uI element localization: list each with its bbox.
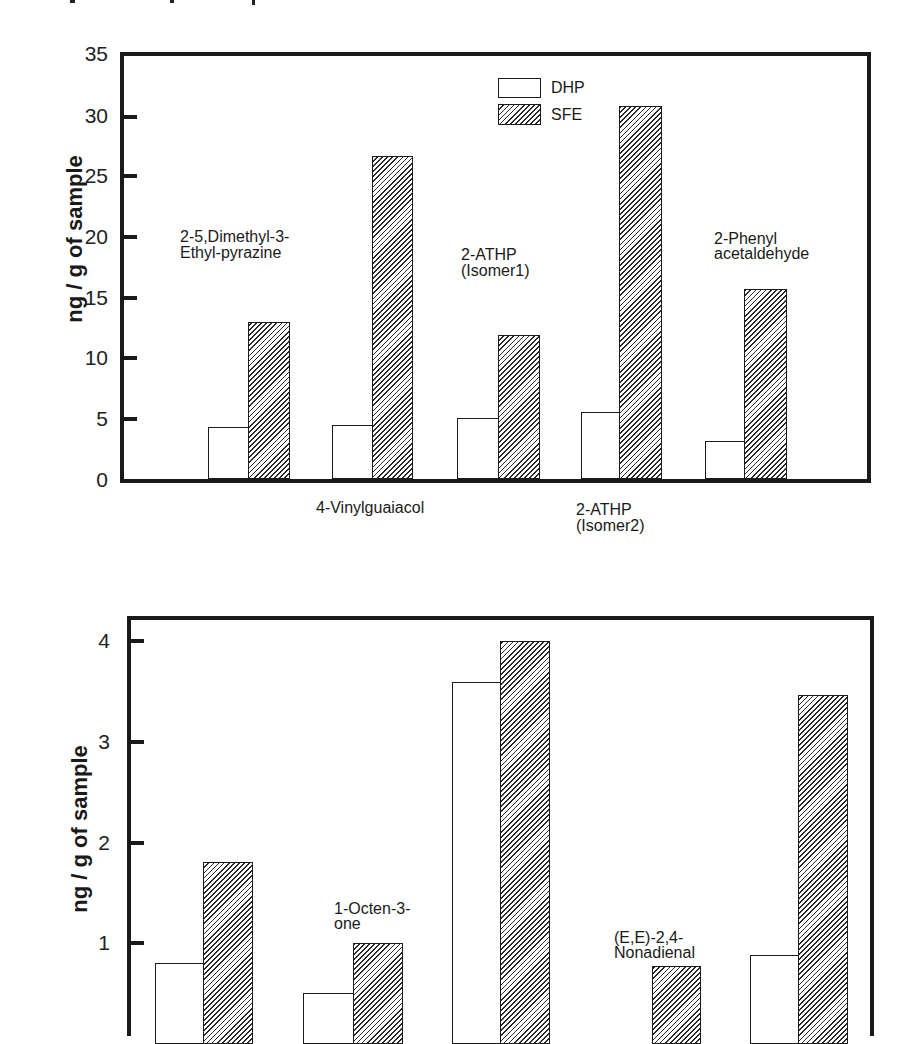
legend-swatch-dhp: [498, 78, 541, 98]
top-tick-5: 5: [68, 408, 108, 429]
top-tick-30: 30: [68, 105, 108, 126]
top-tick-mark: [123, 356, 137, 360]
bar-sfe-dimethyl-ethyl-pyrazine: [248, 322, 290, 479]
annotation-2-phenyl-acetaldehyde-line2: acetaldehyde: [714, 246, 809, 262]
top-tick-mark: [123, 417, 137, 421]
annotation-nonadienal-line2: Nonadienal: [614, 945, 695, 961]
top-tick-0: 0: [68, 469, 108, 490]
annotation-2-athp-isomer1-line1: 2-ATHP: [461, 247, 517, 263]
bottom-tick-mark: [130, 740, 144, 744]
top-tick-mark: [123, 174, 137, 178]
bottom-tick-3: 3: [70, 731, 110, 752]
bar-sfe-group3: [500, 641, 550, 1044]
top-tick-20: 20: [68, 226, 108, 247]
bar-dhp-2-phenyl-acetaldehyde: [705, 441, 745, 479]
annotation-dimethyl-ethyl-pyrazine-line2: Ethyl-pyrazine: [180, 245, 281, 261]
annotation-2-athp-isomer1-line2: (Isomer1): [461, 263, 529, 279]
top-tick-25: 25: [68, 165, 108, 186]
cropped-text-fragment: [170, 0, 174, 3]
cropped-text-fragment: [70, 0, 75, 3]
bar-sfe-group5: [798, 695, 848, 1044]
bar-sfe-2-phenyl-acetaldehyde: [744, 289, 787, 479]
annotation-4-vinylguaiacol: 4-Vinylguaiacol: [316, 500, 424, 516]
top-tick-15: 15: [68, 287, 108, 308]
annotation-1-octen-3-one-line2: one: [334, 916, 361, 932]
annotation-dimethyl-ethyl-pyrazine-line1: 2-5,Dimethyl-3-: [180, 229, 289, 245]
bar-sfe-4-vinylguaiacol: [372, 156, 413, 479]
bottom-tick-4: 4: [70, 630, 110, 651]
bar-dhp-dimethyl-ethyl-pyrazine: [208, 427, 249, 479]
legend-label-dhp: DHP: [551, 80, 585, 96]
legend-swatch-sfe: [498, 104, 541, 125]
bar-dhp-1-octen-3-one: [303, 993, 354, 1044]
bar-dhp-2-athp-isomer2: [581, 412, 623, 479]
bar-dhp-group5: [750, 955, 800, 1044]
bottom-tick-mark: [130, 841, 144, 845]
bar-sfe-2-athp-isomer1: [498, 335, 540, 479]
top-tick-mark: [123, 235, 137, 239]
top-tick-mark: [123, 296, 137, 300]
bar-sfe-nonadienal: [652, 966, 701, 1044]
bar-dhp-2-athp-isomer1: [457, 418, 499, 479]
annotation-2-athp-isomer2-line2: (Isomer2): [576, 518, 644, 534]
annotation-2-athp-isomer2-line1: 2-ATHP: [576, 502, 632, 518]
bar-dhp-group3: [452, 682, 501, 1044]
bottom-tick-1: 1: [70, 932, 110, 953]
cropped-text-fragment: [252, 0, 255, 5]
bar-sfe-group1: [203, 862, 253, 1044]
bar-dhp-4-vinylguaiacol: [332, 425, 373, 479]
top-tick-10: 10: [68, 347, 108, 368]
top-tick-35: 35: [68, 43, 108, 64]
bar-sfe-2-athp-isomer2: [619, 106, 662, 479]
top-tick-mark: [123, 115, 137, 119]
bottom-y-axis-label: ng / g of sample: [69, 739, 91, 919]
legend-label-sfe: SFE: [551, 107, 582, 123]
bottom-tick-2: 2: [70, 832, 110, 853]
bar-dhp-group1: [155, 963, 204, 1044]
bar-sfe-1-octen-3-one: [353, 943, 403, 1044]
bottom-tick-mark: [130, 941, 144, 945]
bottom-tick-mark: [130, 639, 144, 643]
